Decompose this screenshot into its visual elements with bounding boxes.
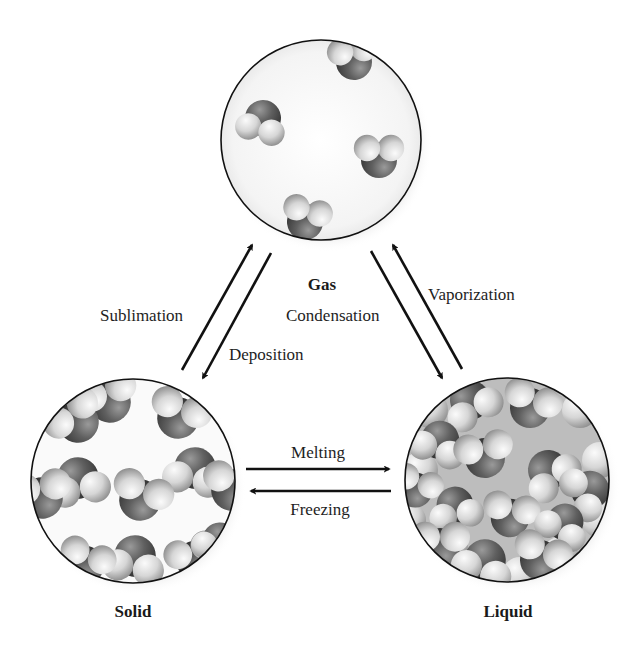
condensation-label: Condensation [286, 306, 380, 325]
liquid-label: Liquid [483, 602, 533, 621]
liquid-state: Liquid [384, 352, 625, 621]
solid-label: Solid [115, 602, 152, 621]
freezing-label: Freezing [290, 500, 350, 519]
melting-label: Melting [291, 443, 345, 462]
vaporization-label: Vaporization [428, 285, 515, 304]
gas-state: Gas [220, 33, 432, 294]
phase-diagram: Gas Solid [0, 0, 641, 653]
gas-label: Gas [308, 275, 337, 294]
solid-state: Solid [7, 366, 268, 621]
deposition-label: Deposition [229, 345, 304, 364]
sublimation-label: Sublimation [100, 306, 184, 325]
